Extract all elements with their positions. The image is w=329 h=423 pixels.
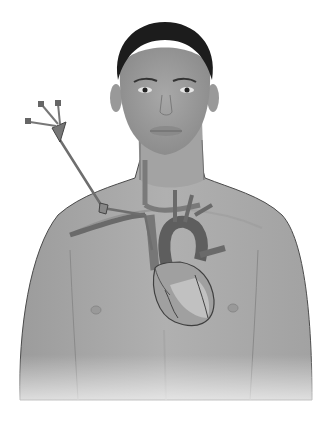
catheter-lumen-3: [58, 104, 60, 124]
nipple-right: [91, 306, 101, 314]
catheter-lumen-2: [42, 105, 58, 124]
head: [110, 22, 219, 155]
catheter-lumen-1: [30, 122, 56, 126]
medical-illustration: [0, 0, 329, 423]
nipple-left: [228, 304, 238, 312]
suture-wing: [99, 203, 108, 214]
